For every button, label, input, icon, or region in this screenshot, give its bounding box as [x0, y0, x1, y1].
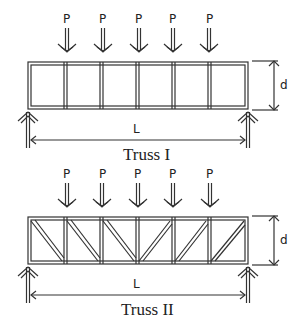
load-label: P	[99, 12, 106, 26]
load-label: P	[206, 12, 213, 26]
truss-1	[18, 28, 279, 148]
truss-2-caption: Truss II	[121, 300, 174, 320]
load-label: P	[63, 167, 70, 181]
truss-2	[18, 183, 279, 303]
depth-label: d	[280, 78, 288, 92]
load-label: P	[169, 167, 176, 181]
load-label: P	[169, 12, 176, 26]
truss-1-caption: Truss I	[123, 145, 170, 165]
load-label: P	[99, 167, 106, 181]
load-label: P	[135, 12, 142, 26]
load-label: P	[134, 167, 141, 181]
span-label: L	[133, 277, 140, 291]
load-label: P	[206, 167, 213, 181]
span-label: L	[133, 122, 140, 136]
load-label: P	[63, 12, 70, 26]
depth-label: d	[280, 233, 288, 247]
